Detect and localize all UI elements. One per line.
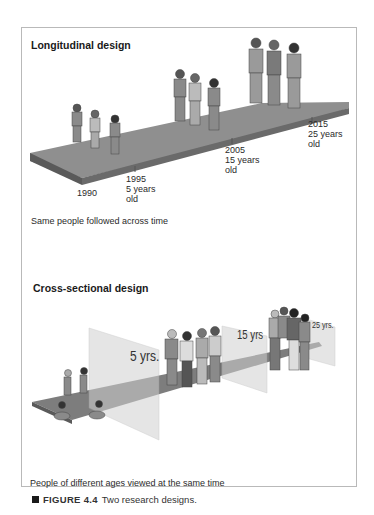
- cross-sectional-title: Cross-sectional design: [33, 282, 149, 294]
- figure-caption-text: Two research designs.: [102, 494, 197, 505]
- panel-label-25yrs: 25 yrs.: [312, 320, 334, 330]
- caption-square-icon: [32, 496, 39, 503]
- figure-frame: Longitudinal design 1990 1995 5 years ol…: [21, 27, 357, 487]
- adults-group: [269, 307, 310, 370]
- figure-number: FIGURE 4.4: [43, 494, 98, 505]
- panel-label-15yrs: 15 yrs: [237, 328, 263, 342]
- cross-sectional-illustration: [22, 28, 358, 488]
- figure-caption: FIGURE 4.4Two research designs.: [32, 494, 197, 505]
- cross-sectional-caption: People of different ages viewed at the s…: [30, 478, 224, 488]
- panel-label-5yrs: 5 yrs.: [130, 347, 159, 364]
